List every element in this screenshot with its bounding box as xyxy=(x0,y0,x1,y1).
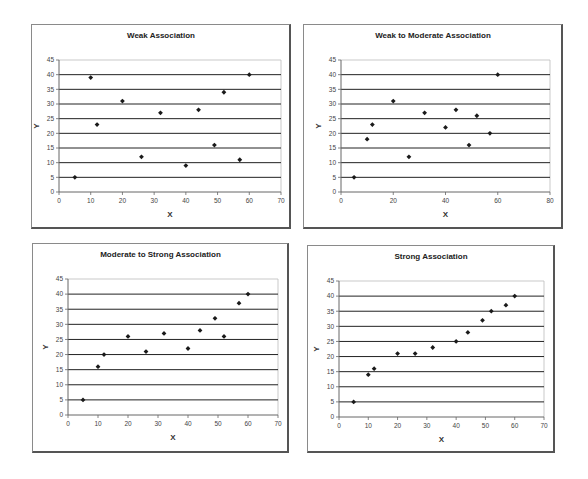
data-point-marker xyxy=(454,339,459,344)
data-point-marker xyxy=(467,143,472,148)
data-point-marker xyxy=(488,131,493,136)
y-tick-label: 20 xyxy=(56,351,64,358)
data-point-marker xyxy=(139,154,144,159)
data-point-marker xyxy=(144,349,149,354)
data-point-marker xyxy=(489,309,494,314)
y-tick-label: 25 xyxy=(47,115,55,122)
x-axis-label: X xyxy=(439,435,445,444)
data-point-marker xyxy=(72,175,77,180)
chart-title: Moderate to Strong Association xyxy=(100,250,221,259)
chart-title: Weak to Moderate Association xyxy=(375,31,491,40)
data-point-marker xyxy=(495,72,500,77)
x-tick-label: 10 xyxy=(94,420,102,427)
data-point-marker xyxy=(474,113,479,118)
data-point-marker xyxy=(512,294,517,299)
y-tick-label: 40 xyxy=(47,71,55,78)
x-tick-label: 70 xyxy=(540,422,548,429)
x-tick-label: 20 xyxy=(124,420,132,427)
chart-weak-association: Weak Association051015202530354045010203… xyxy=(32,31,285,219)
data-point-marker xyxy=(246,292,251,297)
y-tick-label: 20 xyxy=(329,130,337,137)
data-point-marker xyxy=(422,110,427,115)
x-tick-label: 0 xyxy=(66,420,70,427)
y-tick-label: 0 xyxy=(330,413,334,420)
data-point-marker xyxy=(395,351,400,356)
data-point-marker xyxy=(351,399,356,404)
data-point-marker xyxy=(365,137,370,142)
data-point-marker xyxy=(430,345,435,350)
data-point-marker xyxy=(247,72,252,77)
data-point-marker xyxy=(81,397,86,402)
x-tick-label: 0 xyxy=(57,197,61,204)
y-tick-label: 45 xyxy=(327,277,335,284)
x-tick-label: 40 xyxy=(182,197,190,204)
x-tick-label: 20 xyxy=(390,197,398,204)
y-tick-label: 10 xyxy=(56,381,64,388)
data-point-marker xyxy=(237,157,242,162)
y-tick-label: 15 xyxy=(56,366,64,373)
data-point-marker xyxy=(443,125,448,130)
x-tick-label: 60 xyxy=(244,420,252,427)
chart-moderate-to-strong-association: Moderate to Strong Association0510152025… xyxy=(41,250,282,442)
x-tick-label: 30 xyxy=(423,422,431,429)
data-point-marker xyxy=(183,163,188,168)
y-tick-label: 40 xyxy=(56,290,64,297)
data-point-marker xyxy=(413,351,418,356)
data-point-marker xyxy=(96,364,101,369)
x-tick-label: 70 xyxy=(277,197,285,204)
chart-title: Strong Association xyxy=(394,252,467,261)
data-point-marker xyxy=(366,372,371,377)
y-axis-label: Y xyxy=(312,346,321,352)
x-tick-label: 50 xyxy=(482,422,490,429)
x-axis-label: X xyxy=(170,433,176,442)
data-point-marker xyxy=(352,175,357,180)
x-tick-label: 50 xyxy=(214,197,222,204)
y-tick-label: 0 xyxy=(59,411,63,418)
x-tick-label: 30 xyxy=(154,420,162,427)
y-tick-label: 5 xyxy=(330,398,334,405)
y-tick-label: 15 xyxy=(327,368,335,375)
y-tick-label: 20 xyxy=(327,353,335,360)
x-tick-label: 50 xyxy=(214,420,222,427)
data-point-marker xyxy=(162,331,167,336)
y-tick-label: 0 xyxy=(50,188,54,195)
data-point-marker xyxy=(222,90,227,95)
data-point-marker xyxy=(120,99,125,104)
y-tick-label: 45 xyxy=(56,275,64,282)
x-tick-label: 10 xyxy=(365,422,373,429)
data-point-marker xyxy=(198,328,203,333)
chart-strong-association: Strong Association0510152025303540450102… xyxy=(312,252,548,444)
y-tick-label: 10 xyxy=(329,159,337,166)
data-point-marker xyxy=(186,346,191,351)
data-point-marker xyxy=(370,122,375,127)
x-tick-label: 60 xyxy=(511,422,519,429)
data-point-marker xyxy=(504,303,509,308)
data-point-marker xyxy=(480,318,485,323)
y-tick-label: 15 xyxy=(329,144,337,151)
x-tick-label: 40 xyxy=(442,197,450,204)
x-tick-label: 70 xyxy=(274,420,282,427)
y-tick-label: 5 xyxy=(59,396,63,403)
y-tick-label: 30 xyxy=(47,100,55,107)
data-point-marker xyxy=(212,143,217,148)
y-tick-label: 0 xyxy=(332,188,336,195)
y-axis-label: Y xyxy=(41,344,50,350)
y-tick-label: 40 xyxy=(327,292,335,299)
y-tick-label: 25 xyxy=(56,336,64,343)
y-axis-label: Y xyxy=(32,123,41,129)
data-point-marker xyxy=(88,75,93,80)
data-point-marker xyxy=(158,110,163,115)
y-tick-label: 30 xyxy=(329,100,337,107)
data-point-marker xyxy=(102,352,107,357)
y-tick-label: 25 xyxy=(327,338,335,345)
x-tick-label: 0 xyxy=(339,197,343,204)
x-tick-label: 10 xyxy=(87,197,95,204)
x-tick-label: 40 xyxy=(453,422,461,429)
data-point-marker xyxy=(454,107,459,112)
data-point-marker xyxy=(237,301,242,306)
charts-canvas: Weak Association051015202530354045010203… xyxy=(0,0,588,479)
data-point-marker xyxy=(391,99,396,104)
y-tick-label: 25 xyxy=(329,115,337,122)
y-tick-label: 35 xyxy=(47,86,55,93)
y-tick-label: 30 xyxy=(327,323,335,330)
